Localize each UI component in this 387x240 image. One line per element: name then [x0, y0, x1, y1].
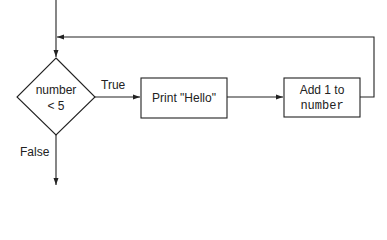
print-hello-label: Print "Hello" [141, 91, 227, 105]
increment-label-line1: Add 1 to [284, 83, 360, 97]
increment-label-line2: number [284, 99, 360, 113]
decision-label-line1: number [26, 83, 86, 97]
decision-label-line2: < 5 [26, 99, 86, 113]
true-label: True [101, 78, 125, 92]
false-label: False [20, 145, 49, 159]
